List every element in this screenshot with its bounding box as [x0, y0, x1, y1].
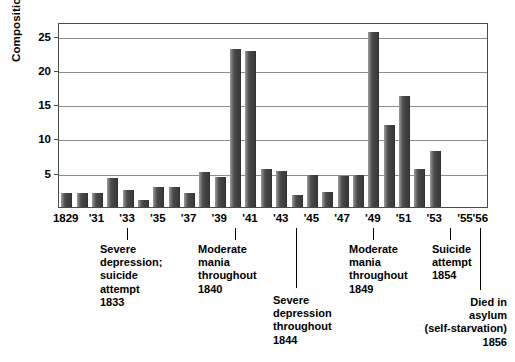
y-axis: Compositions 510152025	[12, 23, 58, 208]
y-tick-label-15: 15	[11, 99, 51, 111]
bar-chart-figure: Compositions 510152025 1829'31'33'35'37'…	[0, 0, 515, 362]
x-tick-label-1831: '31	[89, 212, 105, 224]
bar-1831	[92, 193, 103, 207]
annotation-moderate-mania-1840: Moderate mania throughout 1840	[198, 243, 257, 296]
y-tick-label-25: 25	[11, 31, 51, 43]
leader-line-moderate-mania-1840	[235, 228, 236, 240]
bar-1839	[215, 177, 226, 207]
y-tick-label-5: 5	[11, 168, 51, 180]
bar-1841	[245, 51, 256, 207]
x-tick-label-1843: '43	[273, 212, 289, 224]
x-axis: 1829'31'33'35'37'39'41'43'45'47'49'51'53…	[58, 210, 488, 230]
x-tick-label-1853: '53	[426, 212, 442, 224]
x-tick-label-1845: '45	[304, 212, 320, 224]
annotation-severe-depression-1833: Severe depression; suicide attempt 1833	[100, 243, 162, 309]
bar-1836	[169, 187, 180, 207]
bar-1849	[368, 32, 379, 207]
annotation-severe-depression-1844: Severe depression throughout 1844	[273, 294, 332, 347]
bar-1830	[77, 193, 88, 207]
bar-1837	[184, 193, 195, 207]
x-tick-label-1855: '55	[457, 212, 473, 224]
bar-1842	[261, 169, 272, 207]
leader-line-suicide-attempt-1854	[450, 228, 451, 240]
y-tick-label-10: 10	[11, 133, 51, 145]
x-tick-label-1841: '41	[242, 212, 258, 224]
bar-1851	[399, 96, 410, 207]
bar-1846	[322, 192, 333, 207]
bar-1844	[292, 195, 303, 207]
x-tick-label-1856: '56	[473, 212, 489, 224]
bar-1840	[230, 49, 241, 207]
leader-line-died-in-asylum-1856	[480, 228, 481, 290]
bar-1835	[153, 187, 164, 207]
x-tick-label-1851: '51	[396, 212, 412, 224]
bar-1845	[307, 175, 318, 207]
bar-1833	[123, 190, 134, 207]
bar-1847	[338, 176, 349, 207]
y-tick-label-20: 20	[11, 65, 51, 77]
annotation-suicide-attempt-1854: Suicide attempt 1854	[432, 243, 472, 283]
bar-1832	[107, 178, 118, 207]
bar-series	[59, 24, 487, 207]
plot-area	[58, 23, 488, 208]
bar-1834	[138, 200, 149, 207]
bar-1843	[276, 171, 287, 207]
x-tick-label-1849: '49	[365, 212, 381, 224]
x-tick-label-1839: '39	[211, 212, 227, 224]
x-tick-label-1833: '33	[119, 212, 135, 224]
bar-1848	[353, 175, 364, 207]
leader-line-severe-depression-1833	[127, 228, 128, 240]
x-tick-label-1835: '35	[150, 212, 166, 224]
bar-1850	[384, 125, 395, 207]
leader-line-severe-depression-1844	[296, 228, 297, 288]
bar-1829	[61, 193, 72, 207]
annotation-moderate-mania-1849: Moderate mania throughout 1849	[349, 243, 408, 296]
x-tick-label-1837: '37	[181, 212, 197, 224]
leader-line-moderate-mania-1849	[373, 228, 374, 240]
x-tick-label-1829: 1829	[53, 212, 79, 224]
annotation-died-in-asylum-1856: Died in asylum (self-starvation) 1856	[424, 296, 507, 349]
bar-1852	[414, 169, 425, 207]
x-tick-label-1847: '47	[334, 212, 350, 224]
bar-1853	[430, 151, 441, 207]
bar-1838	[199, 172, 210, 207]
